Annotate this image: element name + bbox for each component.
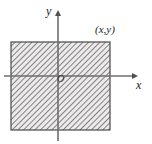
figure-container: y x O (x,y)	[0, 0, 152, 144]
coordinate-diagram-svg	[0, 0, 152, 144]
point-coordinate-label: (x,y)	[95, 24, 115, 35]
y-axis-label: y	[46, 5, 51, 17]
origin-label: O	[57, 74, 64, 84]
hatched-rectangle	[11, 42, 110, 130]
x-axis-label: x	[136, 79, 141, 91]
